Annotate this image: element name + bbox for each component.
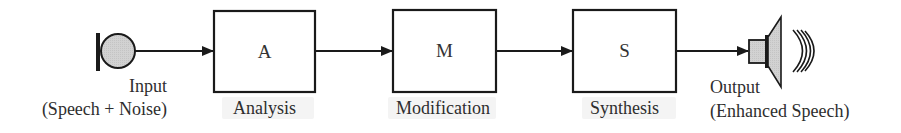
analysis-caption: Analysis	[214, 98, 315, 118]
input-label: Input	[100, 76, 167, 96]
output-label: Output	[710, 77, 760, 97]
microphone-icon	[96, 33, 135, 71]
modification-caption: Modification	[386, 98, 500, 118]
synthesis-block-letter: S	[573, 41, 676, 61]
analysis-block-letter: A	[214, 42, 315, 62]
sound-waves-icon	[793, 30, 814, 72]
synthesis-caption: Synthesis	[573, 98, 676, 118]
modification-block-letter: M	[393, 41, 496, 61]
input-sublabel: (Speech + Noise)	[10, 99, 167, 119]
output-sublabel: (Enhanced Speech)	[710, 101, 849, 121]
